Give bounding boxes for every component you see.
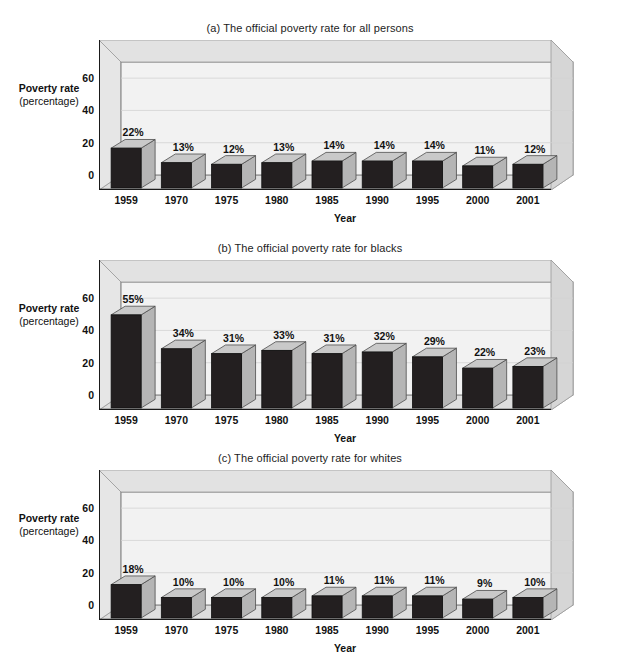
bar-group	[111, 139, 155, 188]
x-tick-label: 1980	[265, 414, 288, 426]
bar-front-face	[312, 354, 342, 408]
x-tick-labels-a: 195919701975198019851990199520002001	[99, 194, 591, 208]
bar-value-label: 18%	[123, 563, 144, 575]
x-tick-label: 2001	[516, 624, 539, 636]
bar-group	[212, 589, 256, 618]
bar-front-face	[412, 161, 442, 188]
bars-svg	[99, 470, 591, 620]
chart-title-b: (b) The official poverty rate for blacks	[0, 242, 620, 254]
x-tick-label: 1959	[114, 414, 137, 426]
bar-front-face	[362, 352, 392, 408]
bar-front-face	[312, 161, 342, 188]
bar-group	[161, 340, 205, 408]
bar-front-face	[212, 354, 242, 408]
x-tick-label: 2000	[466, 194, 489, 206]
bar-value-label: 32%	[374, 330, 395, 342]
bar-group	[463, 359, 507, 408]
bar-group	[212, 156, 256, 188]
y-tick-label: 60	[82, 72, 94, 84]
bar-group	[161, 154, 205, 188]
x-tick-label: 1975	[215, 414, 238, 426]
x-tick-label: 1985	[315, 414, 338, 426]
y-tick-labels-a: 0204060	[66, 40, 94, 190]
bar-group	[513, 589, 557, 618]
x-tick-label: 1985	[315, 624, 338, 636]
x-tick-label: 1995	[416, 194, 439, 206]
bar-front-face	[111, 585, 141, 618]
bar-front-face	[463, 368, 493, 408]
bar-side-face	[191, 340, 205, 408]
x-tick-label: 1975	[215, 194, 238, 206]
plot-area-c: 18%10%10%10%11%11%11%9%10%	[99, 470, 591, 620]
bar-front-face	[262, 598, 292, 618]
x-tick-label: 1985	[315, 194, 338, 206]
bar-value-label: 14%	[323, 139, 344, 151]
bar-side-face	[392, 343, 406, 408]
bar-group	[362, 152, 406, 188]
y-tick-label: 0	[88, 389, 94, 401]
bar-front-face	[513, 164, 543, 188]
x-tick-label: 1970	[165, 414, 188, 426]
y-tick-label: 0	[88, 599, 94, 611]
bar-group	[463, 157, 507, 188]
x-tick-label: 1995	[416, 414, 439, 426]
y-tick-label: 60	[82, 292, 94, 304]
bar-group	[412, 152, 456, 188]
bar-value-label: 22%	[123, 126, 144, 138]
bar-front-face	[262, 163, 292, 188]
bar-side-face	[242, 345, 256, 408]
bar-group	[262, 589, 306, 618]
bar-value-label: 10%	[273, 576, 294, 588]
x-tick-label: 2001	[516, 194, 539, 206]
bar-group	[111, 576, 155, 618]
x-tick-label: 1990	[366, 414, 389, 426]
bars-svg	[99, 40, 591, 190]
bar-group	[463, 590, 507, 618]
x-tick-labels-c: 195919701975198019851990199520002001	[99, 624, 591, 638]
plot-area-a: 22%13%12%13%14%14%14%11%12%	[99, 40, 591, 190]
bar-front-face	[212, 598, 242, 618]
bar-group	[513, 358, 557, 408]
bar-value-label: 11%	[324, 574, 344, 586]
bar-group	[161, 589, 205, 618]
x-tick-label: 1970	[165, 624, 188, 636]
x-axis-label-b: Year	[99, 432, 591, 444]
x-tick-label: 1975	[215, 624, 238, 636]
bar-front-face	[513, 598, 543, 618]
bar-value-label: 13%	[173, 141, 194, 153]
chart-title-a: (a) The official poverty rate for all pe…	[0, 22, 620, 34]
bar-value-label: 10%	[173, 576, 194, 588]
x-tick-label: 2000	[466, 414, 489, 426]
y-tick-label: 60	[82, 502, 94, 514]
x-axis-label-c: Year	[99, 642, 591, 654]
bar-front-face	[412, 596, 442, 618]
bar-front-face	[262, 350, 292, 408]
bar-group	[362, 343, 406, 408]
bar-value-label: 13%	[273, 141, 294, 153]
x-tick-label: 1990	[366, 624, 389, 636]
x-tick-label: 2000	[466, 624, 489, 636]
bar-group	[412, 587, 456, 618]
bar-group	[412, 348, 456, 408]
bar-front-face	[161, 163, 191, 188]
bar-front-face	[111, 148, 141, 188]
x-tick-label: 1990	[366, 194, 389, 206]
chart-title-c: (c) The official poverty rate for whites	[0, 452, 620, 464]
bar-value-label: 11%	[424, 574, 444, 586]
bar-front-face	[111, 315, 141, 408]
bar-value-label: 29%	[424, 335, 445, 347]
bar-group	[362, 587, 406, 618]
bar-value-label: 33%	[273, 329, 294, 341]
plot-area-b: 55%34%31%33%31%32%29%22%23%	[99, 260, 591, 410]
bar-value-label: 12%	[223, 143, 244, 155]
y-tick-label: 20	[82, 357, 94, 369]
bar-series-b: 55%34%31%33%31%32%29%22%23%	[99, 260, 591, 410]
bar-value-label: 9%	[477, 577, 492, 589]
bar-group	[212, 345, 256, 408]
bar-front-face	[362, 596, 392, 618]
x-tick-labels-b: 195919701975198019851990199520002001	[99, 414, 591, 428]
bar-value-label: 11%	[374, 574, 394, 586]
y-tick-labels-c: 0204060	[66, 470, 94, 620]
bar-front-face	[212, 164, 242, 188]
x-axis-label-a: Year	[99, 212, 591, 224]
